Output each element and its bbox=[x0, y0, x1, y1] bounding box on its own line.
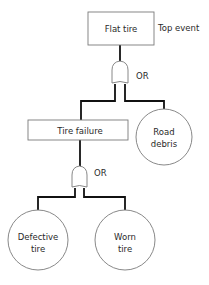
top-event-label: Flat tire bbox=[105, 24, 138, 34]
top-event-annotation: Top event bbox=[157, 23, 200, 33]
defective-tire-line2: tire bbox=[31, 244, 45, 254]
top-event-box: Flat tire bbox=[88, 12, 154, 45]
defective-tire-line1: Defective bbox=[18, 232, 59, 242]
basic-event-defective-tire: Defective tire bbox=[8, 210, 68, 270]
intermediate-event-box: Tire failure bbox=[28, 120, 128, 140]
gate-2-label: OR bbox=[94, 168, 107, 178]
road-debris-line1: Road bbox=[153, 127, 174, 137]
intermediate-event-label: Tire failure bbox=[56, 126, 102, 136]
gate-1-label: OR bbox=[136, 71, 149, 81]
or-gate-icon bbox=[72, 166, 87, 187]
connector-gate2-to-worn-tire bbox=[84, 188, 125, 211]
road-debris-line2: debris bbox=[151, 139, 178, 149]
basic-event-worn-tire: Worn tire bbox=[95, 210, 155, 270]
worn-tire-line2: tire bbox=[118, 244, 132, 254]
connector-gate1-to-tire-failure bbox=[81, 84, 115, 120]
or-gate-icon bbox=[112, 61, 128, 83]
fault-tree-diagram: Flat tire Top event OR Tire failure Road… bbox=[0, 0, 209, 285]
connector-gate2-to-defective-tire bbox=[38, 188, 75, 211]
basic-event-road-debris: Road debris bbox=[136, 109, 192, 165]
connector-gate1-to-road-debris bbox=[125, 84, 164, 109]
worn-tire-line1: Worn bbox=[114, 232, 136, 242]
